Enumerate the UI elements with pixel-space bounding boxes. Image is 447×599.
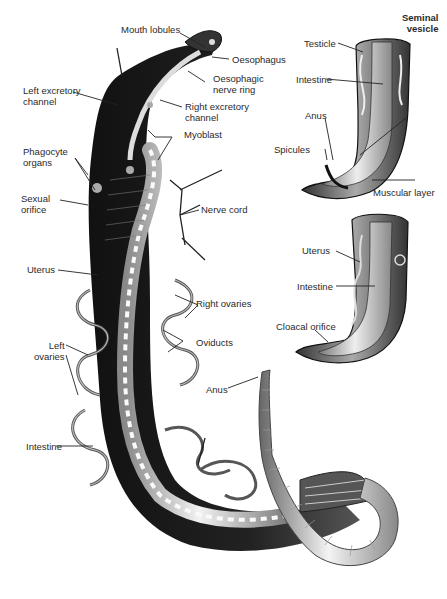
label-anus-main: Anus bbox=[206, 384, 228, 395]
label-nerve-cord: Nerve cord bbox=[201, 204, 247, 215]
label-intestine-female: Intestine bbox=[297, 281, 333, 292]
label-seminal-vesicle: Seminal vesicle bbox=[402, 12, 438, 34]
label-oviducts: Oviducts bbox=[196, 337, 233, 348]
label-mouth-lobules: Mouth lobules bbox=[121, 24, 180, 35]
label-uterus-female: Uterus bbox=[302, 245, 330, 256]
label-sexual-orifice: Sexual orifice bbox=[21, 193, 50, 215]
label-left-excretory-channel: Left excretory channel bbox=[23, 85, 81, 107]
label-oesophagus: Oesophagus bbox=[232, 54, 286, 65]
label-myoblast: Myoblast bbox=[184, 129, 222, 140]
label-testicle: Testicle bbox=[304, 38, 336, 49]
label-phagocyte-organs: Phagocyte organs bbox=[23, 146, 68, 168]
label-uterus: Uterus bbox=[27, 264, 55, 275]
label-anus-male: Anus bbox=[305, 110, 327, 121]
label-left-ovaries: Left ovaries bbox=[34, 340, 65, 362]
label-intestine-male: Intestine bbox=[296, 74, 332, 85]
label-oesophagic-nerve-ring: Oesophagic nerve ring bbox=[213, 73, 264, 95]
label-intestine-main: Intestine bbox=[26, 441, 62, 452]
label-cloacal-orifice: Cloacal orifice bbox=[276, 321, 336, 332]
label-spicules: Spicules bbox=[274, 144, 310, 155]
label-muscular-layer: Muscular layer bbox=[373, 187, 435, 198]
label-right-ovaries: Right ovaries bbox=[196, 298, 251, 309]
label-right-excretory-channel: Right excretory channel bbox=[185, 101, 249, 123]
